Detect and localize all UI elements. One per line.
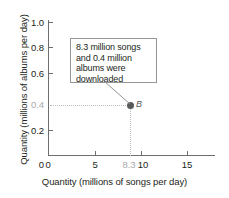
y-axis-title: Quantity (millions of albums per day) [18,5,29,175]
y-tick-0.6 [49,73,53,74]
x-axis-line [48,155,215,156]
x-tick-5 [95,151,96,155]
x-tick-10 [141,151,142,155]
data-point-b-label: B [136,99,142,109]
x-tick-label-0: 0 [35,159,61,170]
x-tick-15 [187,151,188,155]
guide-line-vertical-8.3 [130,105,131,156]
x-tick-label-10: 10 [130,159,156,170]
x-tick-label-15: 15 [174,159,200,170]
y-tick-0.8 [49,47,53,48]
callout-leader-line [104,82,134,107]
scatter-chart-figure: 1.0 0.8 0.6 0.4 0.2 0 0 5 8.3 10 15 B 8.… [0,0,229,198]
y-axis-line [48,20,49,156]
y-tick-0.2 [49,130,53,131]
x-tick-label-5: 5 [82,159,108,170]
y-tick-1.0 [49,22,53,23]
callout-annotation-text: 8.3 million songs and 0.4 million albums… [76,42,152,84]
callout-annotation-box: 8.3 million songs and 0.4 million albums… [70,38,157,83]
x-axis-title: Quantity (millions of songs per day) [0,176,229,187]
